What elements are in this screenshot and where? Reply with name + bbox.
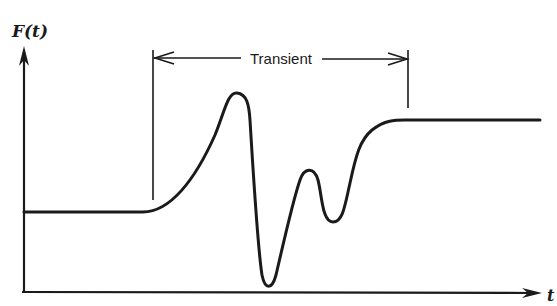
- transient-diagram: F(t) t Transient: [0, 0, 557, 306]
- transient-label: Transient: [250, 50, 313, 67]
- y-axis-label: F(t): [11, 21, 48, 41]
- x-axis-label: t: [547, 286, 555, 305]
- x-axis: [22, 288, 542, 298]
- response-curve: [24, 93, 540, 286]
- y-axis: [19, 46, 29, 292]
